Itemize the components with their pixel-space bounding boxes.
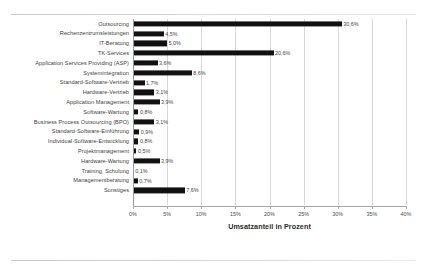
bar-value-label: 0,8% bbox=[138, 138, 152, 144]
bar-track: 0,8% bbox=[133, 107, 427, 117]
chart-row: Individual-Software-Entwicklung0,8% bbox=[0, 137, 427, 147]
category-label: Software-Wartung bbox=[0, 109, 133, 115]
bar-track: 0,7% bbox=[133, 176, 427, 186]
bar bbox=[133, 90, 154, 95]
chart-row: Systemintegration8,6% bbox=[0, 68, 427, 78]
tickmark bbox=[201, 206, 202, 209]
category-label: Sonstiges bbox=[0, 187, 133, 193]
bar-value-label: 0,5% bbox=[136, 148, 150, 154]
tickmark bbox=[167, 206, 168, 209]
category-label: Managementberatung bbox=[0, 177, 133, 183]
chart-row: Projektmanagement0,5% bbox=[0, 146, 427, 156]
category-label: Hardware-Wartung bbox=[0, 158, 133, 164]
chart-rows: Outsourcing30,6%Rechenzentrumsleistungen… bbox=[0, 19, 427, 195]
chart-row: Outsourcing30,6% bbox=[0, 19, 427, 29]
tickmark bbox=[235, 206, 236, 209]
category-label: Projektmanagement bbox=[0, 148, 133, 154]
bar-track: 1,7% bbox=[133, 78, 427, 88]
bar-track: 0,8% bbox=[133, 137, 427, 147]
bar bbox=[133, 188, 185, 193]
y-axis-line bbox=[133, 19, 134, 206]
tickmark bbox=[304, 206, 305, 209]
category-label: IT-Beratung bbox=[0, 40, 133, 46]
bar-track: 3,9% bbox=[133, 156, 427, 166]
tick-label: 40% bbox=[401, 211, 412, 218]
bar bbox=[133, 100, 160, 105]
bar-value-label: 20,6% bbox=[274, 50, 291, 56]
chart-row: Rechenzentrumsleistungen4,5% bbox=[0, 29, 427, 39]
tick-label: 20% bbox=[264, 211, 275, 218]
bar-track: 8,6% bbox=[133, 68, 427, 78]
chart-row: Sonstiges7,6% bbox=[0, 186, 427, 196]
bar bbox=[133, 51, 274, 56]
category-label: TK-Services bbox=[0, 50, 133, 56]
bar-value-label: 0,7% bbox=[138, 178, 152, 184]
tickmark bbox=[372, 206, 373, 209]
bar bbox=[133, 21, 342, 26]
chart-row: Managementberatung0,7% bbox=[0, 176, 427, 186]
bar-value-label: 0,8% bbox=[138, 109, 152, 115]
bar-track: 0,5% bbox=[133, 146, 427, 156]
bar-track: 20,6% bbox=[133, 48, 427, 58]
bar-value-label: 3,9% bbox=[160, 99, 174, 105]
x-axis-title: Umsatzanteil in Prozent bbox=[133, 222, 406, 231]
bar-track: 4,5% bbox=[133, 29, 427, 39]
category-label: Systemintegration bbox=[0, 70, 133, 76]
category-label: Application Management bbox=[0, 99, 133, 105]
tick-label: 25% bbox=[298, 211, 309, 218]
bar bbox=[133, 31, 164, 36]
bar bbox=[133, 80, 145, 85]
category-label: Business Process Outsourcing (BPO) bbox=[0, 119, 133, 125]
category-label: Application Services Providing (ASP) bbox=[0, 60, 133, 66]
chart-row: Software-Wartung0,8% bbox=[0, 107, 427, 117]
bar-value-label: 5,0% bbox=[167, 40, 181, 46]
category-label: Hardware-Vertrieb bbox=[0, 89, 133, 95]
chart-row: Business Process Outsourcing (BPO)3,1% bbox=[0, 117, 427, 127]
bar-value-label: 30,6% bbox=[342, 21, 359, 27]
bar-value-label: 0,9% bbox=[139, 129, 153, 135]
bar bbox=[133, 60, 158, 65]
bar bbox=[133, 70, 192, 75]
tick-label: 10% bbox=[196, 211, 207, 218]
bar-track: 7,6% bbox=[133, 186, 427, 196]
chart-row: IT-Beratung5,0% bbox=[0, 39, 427, 49]
tickmark bbox=[406, 206, 407, 209]
chart-row: Application Management3,9% bbox=[0, 97, 427, 107]
bar-track: 30,6% bbox=[133, 19, 427, 29]
bar-value-label: 0,1% bbox=[134, 168, 148, 174]
bar-track: 3,6% bbox=[133, 58, 427, 68]
bar-track: 3,1% bbox=[133, 88, 427, 98]
bar bbox=[133, 119, 154, 124]
category-label: Individual-Software-Entwicklung bbox=[0, 138, 133, 144]
x-axis-tick-labels: 0%5%10%15%20%25%30%35%40% bbox=[0, 211, 427, 221]
bar-track: 5,0% bbox=[133, 39, 427, 49]
bar-value-label: 3,6% bbox=[158, 60, 172, 66]
tickmark bbox=[133, 206, 134, 209]
tickmark bbox=[270, 206, 271, 209]
bar-track: 3,9% bbox=[133, 97, 427, 107]
chart-row: TK-Services20,6% bbox=[0, 48, 427, 58]
bar-value-label: 3,9% bbox=[160, 158, 174, 164]
category-label: Outsourcing bbox=[0, 21, 133, 27]
bar-value-label: 4,5% bbox=[164, 31, 178, 37]
bar-track: 0,1% bbox=[133, 166, 427, 176]
chart-row: Standard-Software-Vertrieb1,7% bbox=[0, 78, 427, 88]
tick-label: 35% bbox=[366, 211, 377, 218]
bar-track: 0,9% bbox=[133, 127, 427, 137]
category-label: Standard-Software-Vertrieb bbox=[0, 79, 133, 85]
tick-label: 0% bbox=[129, 211, 137, 218]
bar-chart: Outsourcing30,6%Rechenzentrumsleistungen… bbox=[0, 19, 427, 249]
category-label: Standard-Software-Einführung bbox=[0, 128, 133, 134]
chart-row: Training, Schulung0,1% bbox=[0, 166, 427, 176]
bar-value-label: 8,6% bbox=[192, 70, 206, 76]
chart-row: Application Services Providing (ASP)3,6% bbox=[0, 58, 427, 68]
chart-row: Hardware-Wartung3,9% bbox=[0, 156, 427, 166]
chart-row: Standard-Software-Einführung0,9% bbox=[0, 127, 427, 137]
bar-value-label: 1,7% bbox=[145, 80, 159, 86]
bar bbox=[133, 158, 160, 163]
bar-value-label: 3,1% bbox=[154, 89, 168, 95]
tick-label: 15% bbox=[230, 211, 241, 218]
tick-label: 5% bbox=[163, 211, 171, 218]
bar-track: 3,1% bbox=[133, 117, 427, 127]
bar bbox=[133, 41, 167, 46]
